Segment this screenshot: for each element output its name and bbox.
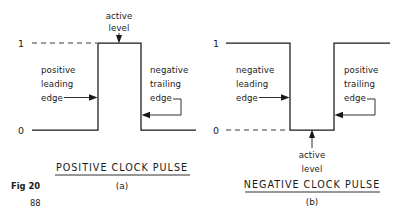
panel-b-trailing-edge-line2: trailing	[344, 79, 375, 89]
page-number-label: 88	[30, 198, 41, 208]
panel-a-leading-edge-line1: positive	[41, 65, 76, 75]
panel-a-active-level-line1: active	[106, 11, 133, 21]
figure-canvas: 1 0 active level positive leading edge n…	[0, 0, 394, 216]
panel-b-trailing-edge-arrowhead	[335, 112, 344, 118]
panel-b-caption-sub: (b)	[306, 197, 318, 207]
panel-a-leading-edge-line3: edge	[41, 93, 63, 103]
panel-b-trailing-edge-line1: positive	[344, 65, 379, 75]
panel-b-leading-edge-line3: edge	[236, 93, 258, 103]
panel-a-active-level-arrowhead	[116, 35, 122, 44]
panel-a-trailing-edge-line2: trailing	[150, 79, 181, 89]
panel-a-active-level-line2: level	[109, 23, 130, 33]
panel-b-leading-edge-line2: leading	[236, 79, 268, 89]
panel-b-leading-edge-arrowhead	[281, 94, 290, 100]
panel-a-caption-sub: (a)	[116, 181, 128, 191]
figure-number-label: Fig 20	[11, 181, 40, 191]
figure-clock-pulses: 1 0 active level positive leading edge n…	[0, 0, 394, 216]
panel-a-trailing-edge-arrowhead	[142, 112, 151, 118]
panel-b-active-level-line1: active	[299, 150, 326, 160]
panel-a-caption: POSITIVE CLOCK PULSE	[56, 162, 188, 173]
panel-a-trailing-edge-line1: negative	[150, 65, 188, 75]
panel-a-leading-edge-line2: leading	[41, 79, 73, 89]
panel-b-caption: NEGATIVE CLOCK PULSE	[244, 179, 380, 190]
panel-a-trailing-edge-line3: edge	[150, 93, 172, 103]
panel-b-group: 1 0 negative leading edge positive trail…	[213, 38, 390, 207]
panel-b-high-label: 1	[213, 38, 219, 49]
panel-b-active-level-arrowhead	[309, 130, 315, 139]
panel-a-low-label: 0	[18, 125, 24, 136]
panel-a-leading-edge-arrowhead	[89, 94, 98, 100]
panel-b-trailing-edge-line3: edge	[344, 93, 366, 103]
panel-b-leading-edge-line1: negative	[236, 65, 274, 75]
panel-a-high-label: 1	[18, 38, 24, 49]
panel-b-active-level-line2: level	[302, 164, 323, 174]
panel-a-group: 1 0 active level positive leading edge n…	[18, 11, 196, 191]
panel-b-low-label: 0	[213, 125, 219, 136]
